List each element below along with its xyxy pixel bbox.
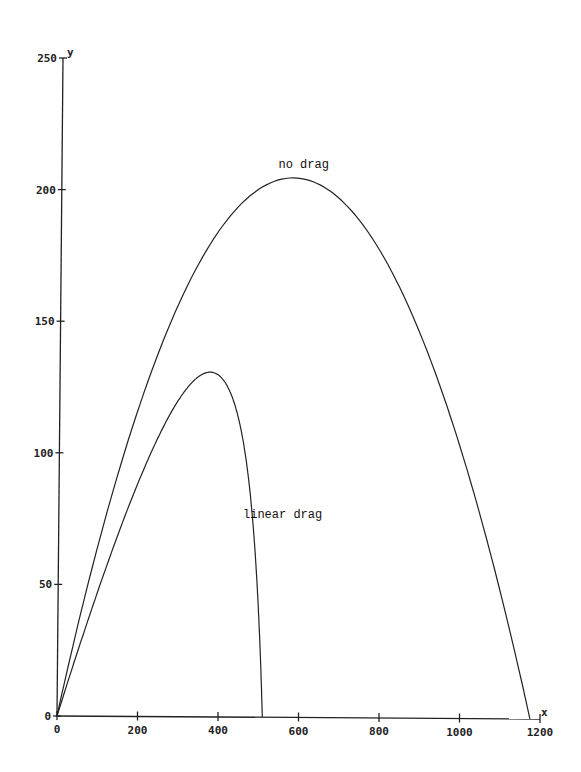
y-tick-label: 50 (39, 578, 52, 591)
y-axis-label: y (67, 46, 74, 59)
y-tick-label: 150 (35, 315, 55, 328)
x-tick-label: 1000 (446, 726, 473, 739)
x-tick-label: 1200 (527, 726, 554, 739)
y-tick-label: 0 (44, 710, 51, 723)
x-tick-label: 400 (208, 724, 228, 737)
y-tick-label: 100 (34, 447, 54, 460)
x-tick-label: 200 (128, 724, 148, 737)
x-tick-label: 0 (54, 723, 61, 736)
no-drag-curve (57, 178, 530, 719)
y-tick-label: 200 (36, 184, 56, 197)
axis-ticks: 020040060080010001200050100150200250 (34, 52, 554, 739)
trajectory-chart: 020040060080010001200050100150200250 no … (0, 0, 581, 772)
x-tick-label: 600 (289, 725, 309, 738)
no-drag-label: no drag (279, 158, 329, 172)
x-axis-label: x (541, 706, 548, 719)
linear-drag-curve (57, 372, 262, 717)
linear-drag-label: linear drag (243, 508, 322, 522)
y-tick-label: 250 (37, 52, 57, 65)
x-tick-label: 800 (369, 725, 389, 738)
